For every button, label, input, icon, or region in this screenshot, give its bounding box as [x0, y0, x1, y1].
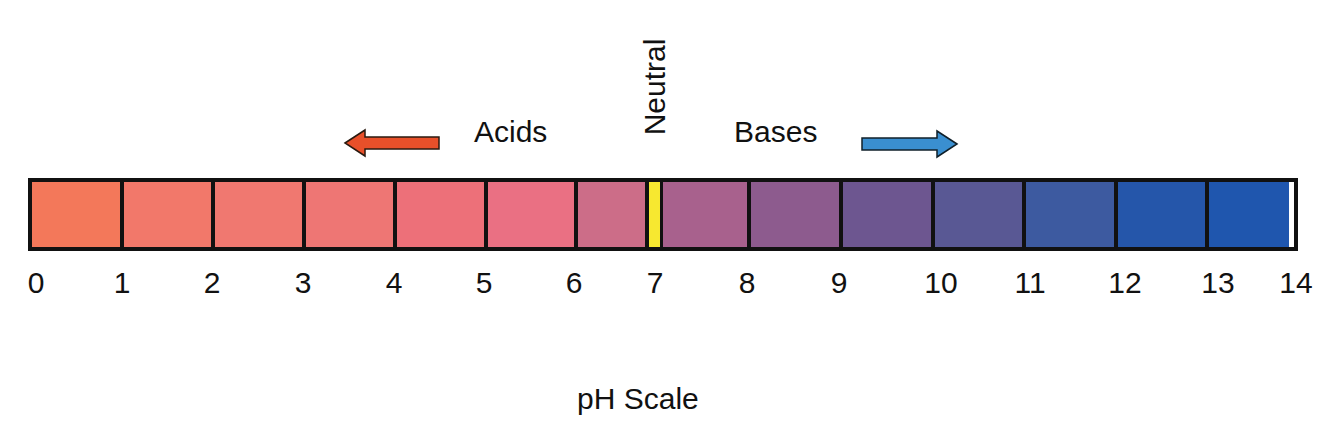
ph-cell-10-11	[935, 182, 1022, 247]
ph-cell-3-4	[306, 182, 393, 247]
ph-cell-8-9	[751, 182, 839, 247]
diagram-title: pH Scale	[577, 384, 699, 414]
ph-cell-13-14	[1209, 182, 1289, 247]
ph-cell-2-3	[215, 182, 302, 247]
ph-color-bar	[28, 178, 1298, 251]
tick-label-0: 0	[28, 268, 45, 298]
ph-cell-11-12	[1026, 182, 1114, 247]
tick-label-3: 3	[295, 268, 312, 298]
ph-cell-7-8	[663, 182, 747, 247]
ph-cell-1-2	[124, 182, 211, 247]
ph-cell-5-6	[488, 182, 574, 247]
bases-arrow-icon	[859, 129, 959, 159]
bases-label: Bases	[734, 117, 817, 147]
tick-label-5: 5	[476, 268, 493, 298]
ph-cell-0-1	[32, 182, 120, 247]
ph-cell-6-7	[578, 182, 645, 247]
tick-label-8: 8	[739, 268, 756, 298]
bar-end-strip	[1289, 182, 1294, 247]
tick-label-11: 11	[1014, 268, 1045, 298]
tick-label-9: 9	[831, 268, 848, 298]
tick-label-6: 6	[566, 268, 583, 298]
neutral-label: Neutral	[640, 39, 670, 136]
neutral-marker	[649, 182, 660, 247]
acids-label: Acids	[474, 117, 547, 147]
tick-label-14: 14	[1279, 268, 1312, 298]
tick-label-10: 10	[924, 268, 957, 298]
tick-label-13: 13	[1201, 268, 1234, 298]
ph-cell-12-13	[1118, 182, 1205, 247]
tick-label-4: 4	[386, 268, 403, 298]
tick-label-12: 12	[1108, 268, 1141, 298]
acids-arrow-icon	[343, 128, 443, 158]
tick-label-1: 1	[114, 268, 131, 298]
tick-label-2: 2	[204, 268, 221, 298]
ph-cell-4-5	[397, 182, 484, 247]
ph-cell-9-10	[843, 182, 931, 247]
tick-label-7: 7	[647, 268, 664, 298]
